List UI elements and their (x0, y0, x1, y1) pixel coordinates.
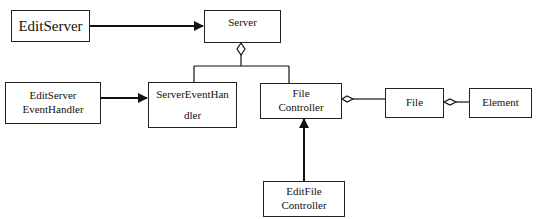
node-label-line1: EditFile (286, 185, 321, 199)
aggregation-diamond-server (237, 43, 245, 55)
node-label-line1: EditServer (29, 89, 76, 103)
node-edit-server: EditServer (11, 10, 90, 42)
node-file: File (385, 88, 444, 118)
node-label: Element (482, 96, 519, 110)
node-label: File (406, 96, 423, 110)
node-server: Server (204, 10, 281, 43)
node-label: Server (228, 16, 257, 30)
node-server-event-handler: ServerEventHan dler (148, 82, 237, 128)
aggregation-diamond-file (444, 99, 456, 105)
node-edit-file-controller: EditFile Controller (263, 181, 345, 217)
node-label: EditServer (18, 17, 82, 36)
node-label-line1: ServerEventHan (156, 84, 229, 105)
node-element: Element (469, 88, 532, 118)
node-label-line2: dler (184, 105, 201, 126)
node-label-line2: Controller (278, 101, 323, 115)
node-label-line1: File (292, 87, 309, 101)
node-edit-server-event-handler: EditServer EventHandler (5, 82, 101, 124)
node-file-controller: File Controller (260, 83, 342, 119)
aggregation-diamond-filecontroller (342, 96, 353, 102)
node-label-line2: Controller (281, 199, 326, 213)
node-label-line2: EventHandler (22, 103, 83, 117)
